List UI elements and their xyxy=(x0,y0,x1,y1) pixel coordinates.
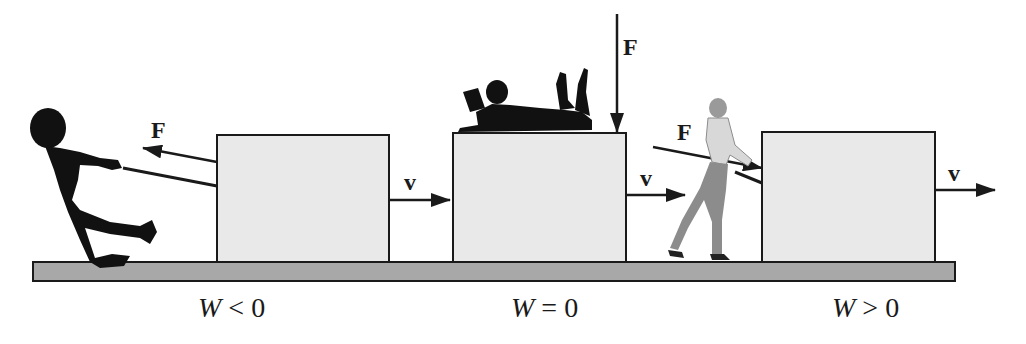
force-label: F xyxy=(623,34,638,60)
caption-value: 0 xyxy=(564,292,578,323)
panel-negative-work: F v xyxy=(30,108,450,268)
panel-positive-work: F v xyxy=(653,98,995,262)
box-2 xyxy=(453,133,626,262)
reading-person-icon xyxy=(458,68,592,132)
velocity-label: v xyxy=(640,165,652,191)
caption-value: 0 xyxy=(251,292,265,323)
caption-variable: W xyxy=(511,292,534,323)
caption-operator: < xyxy=(228,292,244,323)
caption-negative-work: W < 0 xyxy=(198,292,265,324)
floor xyxy=(33,262,955,281)
rope xyxy=(123,168,217,186)
caption-variable: W xyxy=(198,292,221,323)
box-1 xyxy=(217,135,389,262)
caption-operator: = xyxy=(541,292,557,323)
velocity-label: v xyxy=(948,160,960,186)
force-label: F xyxy=(677,119,692,145)
caption-zero-work: W = 0 xyxy=(511,292,578,324)
caption-value: 0 xyxy=(885,292,899,323)
caption-operator: > xyxy=(862,292,878,323)
caption-positive-work: W > 0 xyxy=(832,292,899,324)
caption-variable: W xyxy=(832,292,855,323)
panel-zero-work: F v xyxy=(453,14,685,262)
force-label: F xyxy=(151,117,166,143)
box-3 xyxy=(762,132,935,262)
pulling-person-icon xyxy=(30,108,157,268)
velocity-label: v xyxy=(404,169,416,195)
push-stick xyxy=(735,172,762,183)
force-arrow-icon xyxy=(143,148,217,162)
